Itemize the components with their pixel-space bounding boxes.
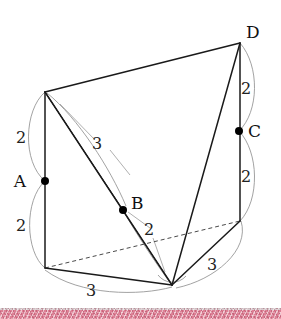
arc-left-lower-2: [30, 181, 45, 268]
point-label-B: B: [131, 193, 144, 213]
bottom-texture-band: [0, 308, 281, 319]
edge-botright-to-apex: [172, 221, 240, 285]
length-label-b-apex: 2: [144, 220, 154, 239]
arc-left-upper-2: [28, 92, 45, 181]
diagram-canvas: A B D C 2 2 3 2 2 2 3 3: [0, 0, 281, 319]
edge-botleft-to-apex: [45, 268, 172, 285]
arc-diagonal-3: [47, 93, 126, 206]
vertex-dot-C: [235, 127, 243, 135]
edge-D-to-apex: [172, 43, 240, 285]
length-label-top-left: 2: [16, 128, 26, 147]
length-label-diagonal: 3: [92, 134, 102, 153]
vertex-dot-A: [41, 177, 49, 185]
point-label-A: A: [13, 171, 27, 191]
length-label-bottom-left: 2: [16, 216, 26, 235]
length-label-base-right: 3: [207, 255, 217, 274]
edge-topleft-to-D: [45, 43, 240, 92]
point-label-D: D: [246, 22, 260, 42]
arc-base-front-3: [45, 270, 172, 292]
band-texture-overlay: [0, 308, 281, 319]
edge-topleft-to-apex: [45, 92, 172, 285]
geometry-figure: A B D C 2 2 3 2 2 2 3 3: [0, 0, 281, 319]
vertex-dot-B: [119, 206, 127, 214]
length-label-base-front: 3: [86, 281, 96, 300]
point-label-C: C: [248, 121, 261, 141]
length-label-mid-right: 2: [241, 167, 251, 186]
leader-3-diagonal-lower: [110, 150, 130, 175]
length-label-top-right: 2: [241, 79, 251, 98]
